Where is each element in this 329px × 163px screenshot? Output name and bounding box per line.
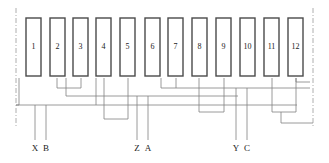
terminal-C: C — [244, 88, 250, 153]
coil-label-11: 11 — [268, 42, 276, 51]
terminal-Z: Z — [134, 96, 140, 153]
terminal-label-Y: Y — [233, 143, 240, 153]
winding-diagram-canvas: 123456789101112 XBZAYC — [0, 0, 329, 163]
terminal-A: A — [145, 96, 152, 153]
coil-12: 12 — [288, 18, 303, 76]
wire-coil11-loop — [272, 78, 296, 112]
coil-label-12: 12 — [292, 42, 300, 51]
coil-1: 1 — [26, 18, 41, 76]
coil-label-6: 6 — [151, 42, 155, 51]
terminal-Y: Y — [233, 88, 240, 153]
coil-label-4: 4 — [102, 42, 106, 51]
coil-8: 8 — [192, 18, 207, 76]
coil-label-10: 10 — [244, 42, 252, 51]
coil-label-9: 9 — [222, 42, 226, 51]
terminal-label-B: B — [43, 143, 49, 153]
wire-coil7-bus — [161, 78, 176, 88]
wire-coil12-bus — [296, 78, 310, 82]
coil-label-7: 7 — [174, 42, 178, 51]
coil-9: 9 — [216, 18, 231, 76]
wire-coil3-bus — [66, 78, 238, 96]
coil-6: 6 — [145, 18, 160, 76]
coil-label-3: 3 — [79, 42, 83, 51]
terminal-X: X — [32, 105, 39, 153]
terminal-B: B — [43, 105, 49, 153]
coil-7: 7 — [168, 18, 183, 76]
coil-rectangles-group: 123456789101112 — [26, 18, 303, 76]
coil-label-5: 5 — [126, 42, 130, 51]
coil-11: 11 — [264, 18, 279, 76]
terminal-label-C: C — [244, 143, 250, 153]
coil-label-2: 2 — [56, 42, 60, 51]
wire-coil4-loop — [104, 78, 128, 119]
terminal-label-A: A — [145, 143, 152, 153]
coil-label-1: 1 — [32, 42, 36, 51]
coil-label-8: 8 — [198, 42, 202, 51]
terminal-label-Z: Z — [134, 143, 140, 153]
coil-5: 5 — [120, 18, 135, 76]
diagram-root: 123456789101112 XBZAYC — [0, 0, 329, 163]
wire-coil8-loop — [199, 78, 224, 112]
wire-coil1-down — [16, 78, 19, 105]
terminal-leads-group: XBZAYC — [32, 88, 250, 153]
connection-wires-group — [16, 78, 313, 123]
coil-3: 3 — [73, 18, 88, 76]
wire-coil2-coil3 — [57, 78, 81, 88]
coil-4: 4 — [96, 18, 111, 76]
terminal-label-X: X — [32, 143, 39, 153]
coil-2: 2 — [50, 18, 65, 76]
coil-10: 10 — [240, 18, 255, 76]
